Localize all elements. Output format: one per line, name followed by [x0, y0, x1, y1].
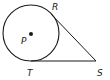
tangent-circle-diagram: P R T S — [0, 0, 110, 80]
center-point-p — [29, 32, 33, 36]
label-s: S — [97, 68, 103, 78]
label-t: T — [27, 68, 34, 78]
label-p: P — [21, 36, 27, 46]
label-r: R — [52, 2, 58, 12]
tangent-segment-rs — [51, 14, 96, 61]
